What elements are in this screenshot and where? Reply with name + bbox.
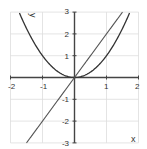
y-axis-label: y [28,13,38,18]
x-tick-label: -1 [40,82,48,91]
y-tick-label: -3 [62,139,70,148]
y-tick-label: 3 [65,7,70,16]
x-axis-label: x [131,134,136,144]
x-tick-label: 2 [135,82,140,91]
y-tick-label: -2 [62,117,70,126]
function-plot: -2 -1 1 2 3 2 1 -1 -2 -3 x y [0,0,147,149]
y-tick-label: -1 [62,95,70,104]
y-tick-label: 1 [65,52,70,61]
x-tick-label: 1 [104,82,109,91]
x-tick-label: -2 [8,82,16,91]
y-tick-label: 2 [65,30,70,39]
